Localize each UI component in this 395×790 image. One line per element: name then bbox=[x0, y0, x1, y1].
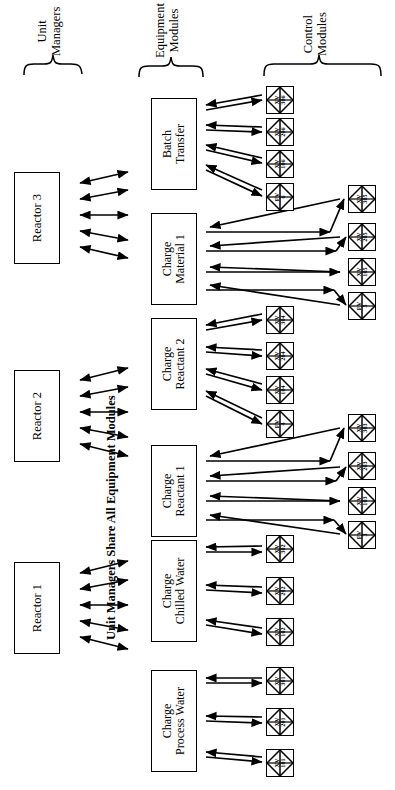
control-module-tag: XV 206 bbox=[274, 119, 286, 145]
equipment-module-label: Batch Transfer bbox=[161, 124, 188, 164]
arrows-charge-reactant-1 bbox=[206, 428, 346, 534]
control-module-tag: XV 106 bbox=[274, 151, 286, 177]
unit-manager-label: Reactor 1 bbox=[30, 584, 44, 632]
control-module-tag: XV 305 bbox=[356, 186, 368, 212]
control-module-xv-304[interactable]: XV 304 bbox=[266, 306, 294, 334]
control-module-tag: XV 301 bbox=[274, 668, 286, 694]
control-module-tag: XV 302 bbox=[274, 536, 286, 562]
equipment-module-batch-transfer[interactable]: Batch Transfer bbox=[151, 98, 197, 190]
control-module-number: 304 bbox=[280, 307, 286, 333]
control-module-number: 201 bbox=[280, 709, 286, 735]
control-module-xv-206[interactable]: XV 206 bbox=[266, 118, 294, 146]
control-module-xv-104[interactable]: XV 104 bbox=[266, 376, 294, 404]
equipment-module-label-line1: Charge bbox=[160, 242, 174, 276]
arrows-charge-material-1 bbox=[206, 199, 346, 305]
control-module-number: 105 bbox=[362, 259, 368, 285]
control-module-xv-303[interactable]: XV 303 bbox=[348, 414, 376, 442]
control-module-xv-301[interactable]: XV 301 bbox=[266, 667, 294, 695]
arrows-reactor-3 bbox=[80, 172, 128, 258]
unit-manager-label: Reactor 2 bbox=[30, 392, 44, 440]
control-module-number: 4 bbox=[280, 411, 286, 437]
control-module-tag: XV 202 bbox=[274, 578, 286, 604]
control-module-xv-306[interactable]: XV 306 bbox=[266, 86, 294, 114]
diagram-caption: Unit Managers Share All Equipment Module… bbox=[104, 395, 119, 640]
diagram-canvas: Unit Managers Equipment Modules Control … bbox=[0, 0, 395, 790]
equipment-module-label-line1: Charge bbox=[160, 347, 174, 381]
equipment-module-label-line2: Chilled Water bbox=[173, 558, 187, 624]
control-module-xv-101[interactable]: XV 101 bbox=[266, 749, 294, 777]
control-module-number: 106 bbox=[280, 151, 286, 177]
control-module-xv-203[interactable]: XV 203 bbox=[348, 452, 376, 480]
group-label-line1: Unit bbox=[36, 7, 50, 56]
control-module-fv-4[interactable]: FV 4 bbox=[266, 410, 294, 438]
control-module-tag: FV 6 bbox=[274, 184, 286, 210]
unit-manager-reactor-3[interactable]: Reactor 3 bbox=[14, 172, 60, 264]
control-module-tag: FV 3 bbox=[356, 522, 368, 548]
group-label-line2: Managers bbox=[50, 7, 64, 56]
control-module-number: 205 bbox=[362, 224, 368, 250]
control-module-xv-201[interactable]: XV 201 bbox=[266, 708, 294, 736]
group-label-line1: Equipment bbox=[154, 3, 168, 58]
equipment-module-charge-chilled-water[interactable]: Charge Chilled Water bbox=[151, 540, 197, 642]
equipment-module-charge-process-water[interactable]: Charge Process Water bbox=[151, 670, 197, 772]
control-module-number: 202 bbox=[280, 578, 286, 604]
control-module-tag: FV 5 bbox=[356, 293, 368, 319]
control-module-number: 103 bbox=[362, 488, 368, 514]
unit-manager-reactor-1[interactable]: Reactor 1 bbox=[14, 562, 60, 654]
control-module-fv-6[interactable]: FV 6 bbox=[266, 183, 294, 211]
control-module-xv-105[interactable]: XV 105 bbox=[348, 258, 376, 286]
control-module-xv-205[interactable]: XV 205 bbox=[348, 223, 376, 251]
equipment-module-label-line2: Process Water bbox=[173, 687, 187, 755]
control-module-xv-102[interactable]: XV 102 bbox=[266, 618, 294, 646]
equipment-module-label: Charge Process Water bbox=[161, 687, 188, 755]
control-module-number: 102 bbox=[280, 619, 286, 645]
control-module-number: 104 bbox=[280, 377, 286, 403]
arrows-charge-process-water bbox=[206, 678, 262, 762]
control-module-fv-3[interactable]: FV 3 bbox=[348, 521, 376, 549]
control-module-number: 305 bbox=[362, 186, 368, 212]
group-label-unit-managers: Unit Managers bbox=[36, 7, 64, 56]
group-label-control-modules: Control Modules bbox=[302, 12, 330, 56]
control-module-number: 302 bbox=[280, 536, 286, 562]
equipment-module-label-line1: Charge bbox=[160, 474, 174, 508]
control-module-tag: XV 303 bbox=[356, 415, 368, 441]
control-module-xv-106[interactable]: XV 106 bbox=[266, 150, 294, 178]
control-module-number: 206 bbox=[280, 119, 286, 145]
equipment-module-charge-reactant-1[interactable]: Charge Reactant 1 bbox=[151, 445, 197, 537]
equipment-module-label: Charge Reactant 1 bbox=[161, 466, 188, 517]
control-module-tag: XV 306 bbox=[274, 87, 286, 113]
control-module-tag: XV 304 bbox=[274, 307, 286, 333]
equipment-module-label: Charge Reactant 2 bbox=[161, 339, 188, 390]
equipment-module-label-line1: Batch bbox=[160, 130, 174, 158]
group-label-line1: Control bbox=[302, 12, 316, 56]
unit-manager-reactor-2[interactable]: Reactor 2 bbox=[14, 370, 60, 462]
equipment-module-label-line2: Reactant 2 bbox=[173, 339, 187, 390]
control-module-number: 203 bbox=[362, 453, 368, 479]
group-label-line2: Modules bbox=[168, 3, 182, 58]
arrows-batch-transfer bbox=[206, 95, 262, 196]
control-module-xv-103[interactable]: XV 103 bbox=[348, 487, 376, 515]
control-module-number: 6 bbox=[280, 184, 286, 210]
control-module-tag: XV 201 bbox=[274, 709, 286, 735]
equipment-module-charge-reactant-2[interactable]: Charge Reactant 2 bbox=[151, 318, 197, 410]
group-label-line2: Modules bbox=[316, 12, 330, 56]
control-module-number: 101 bbox=[280, 750, 286, 776]
control-module-tag: XV 205 bbox=[356, 224, 368, 250]
arrows-charge-reactant-2 bbox=[206, 314, 262, 424]
control-module-tag: FV 4 bbox=[274, 411, 286, 437]
control-module-tag: XV 103 bbox=[356, 488, 368, 514]
equipment-module-charge-material-1[interactable]: Charge Material 1 bbox=[151, 213, 197, 305]
control-module-xv-305[interactable]: XV 305 bbox=[348, 185, 376, 213]
control-module-fv-5[interactable]: FV 5 bbox=[348, 292, 376, 320]
equipment-module-label-line1: Charge bbox=[160, 574, 174, 608]
control-module-xv-204[interactable]: XV 204 bbox=[266, 342, 294, 370]
unit-manager-label: Reactor 3 bbox=[30, 194, 44, 242]
control-module-tag: XV 203 bbox=[356, 453, 368, 479]
control-module-xv-202[interactable]: XV 202 bbox=[266, 577, 294, 605]
equipment-module-label: Charge Chilled Water bbox=[161, 558, 188, 624]
equipment-module-label: Charge Material 1 bbox=[161, 234, 188, 284]
control-module-xv-302[interactable]: XV 302 bbox=[266, 535, 294, 563]
equipment-module-label-line1: Charge bbox=[160, 704, 174, 738]
control-module-number: 204 bbox=[280, 343, 286, 369]
control-module-tag: XV 105 bbox=[356, 259, 368, 285]
